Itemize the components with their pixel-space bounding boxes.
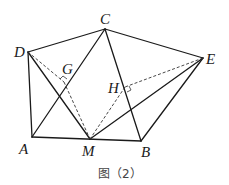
figure-caption: 图（2）: [98, 167, 142, 181]
segment-AC: [32, 29, 105, 137]
segment-AB: [32, 137, 141, 141]
label-B: B: [141, 144, 150, 160]
label-G: G: [62, 61, 73, 77]
dashed-GM: [64, 82, 90, 139]
right-angle-mark-H: [127, 86, 131, 92]
geometry-figure: C D E G H A M B 图（2）: [0, 0, 229, 185]
label-D: D: [13, 44, 25, 60]
label-C: C: [100, 11, 111, 27]
segment-EM: [90, 58, 203, 139]
label-M: M: [81, 143, 96, 159]
label-H: H: [107, 80, 120, 96]
label-E: E: [205, 51, 215, 67]
label-A: A: [18, 141, 29, 157]
segment-DA: [28, 52, 32, 137]
dashed-EH: [125, 58, 203, 87]
segment-DC: [28, 29, 105, 52]
segment-CE: [105, 29, 203, 58]
segment-EB: [141, 58, 203, 141]
